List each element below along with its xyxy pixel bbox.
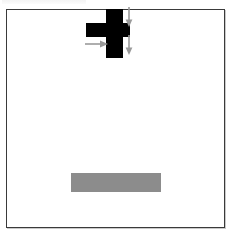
- figure-canvas: [7, 10, 224, 227]
- gray-bar-shape: [71, 173, 161, 192]
- arrow-right-icon: [85, 39, 108, 49]
- arrow-down-top-icon: [124, 7, 134, 27]
- figure-frame: [6, 9, 225, 228]
- scan-artifact-strip: [2, 0, 86, 4]
- cross-vertical-arm: [106, 9, 123, 58]
- arrow-down-bottom-icon: [124, 35, 134, 55]
- figure-screenshot: [0, 0, 234, 237]
